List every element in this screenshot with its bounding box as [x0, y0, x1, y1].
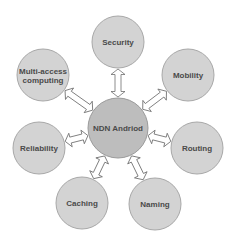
node-routing: Routing	[171, 122, 223, 174]
arrow-routing-icon	[146, 129, 172, 148]
node-mobility: Mobility	[162, 49, 214, 101]
node-security: Security	[92, 16, 144, 68]
node-multi-access-computing-label: computing	[23, 76, 64, 85]
node-routing-label: Routing	[182, 144, 212, 153]
node-reliability: Reliability	[13, 122, 65, 174]
arrow-mobility-icon	[138, 86, 170, 115]
node-multi-access-computing: Multi-accesscomputing	[17, 49, 69, 101]
center-node-label: NDN Andriod	[93, 124, 143, 133]
arrow-multi-access-computing-icon	[61, 85, 97, 116]
node-mobility-label: Mobility	[173, 71, 204, 80]
arrow-reliability-icon	[63, 129, 89, 148]
node-multi-access-computing-label: Multi-access	[19, 67, 68, 76]
node-security-label: Security	[102, 38, 134, 47]
node-reliability-label: Reliability	[20, 144, 58, 153]
arrow-caching-icon	[87, 153, 111, 182]
node-naming-label: Naming	[140, 200, 169, 209]
ndn-android-diagram: SecurityMobilityRoutingNamingCachingReli…	[0, 0, 235, 239]
arrow-security-icon	[111, 69, 125, 97]
node-caching-label: Caching	[66, 199, 98, 208]
center-node: NDN Andriod	[88, 98, 148, 158]
arrow-naming-icon	[125, 153, 149, 183]
node-naming: Naming	[129, 178, 181, 230]
node-caching: Caching	[56, 177, 108, 229]
